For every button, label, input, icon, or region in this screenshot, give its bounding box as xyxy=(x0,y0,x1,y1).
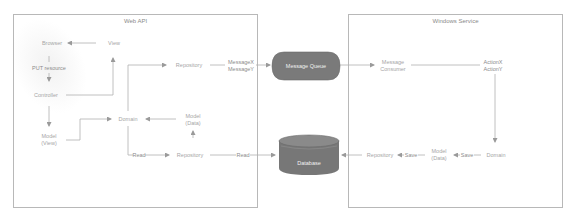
read-label-left: Read xyxy=(132,152,145,159)
database-label: Database xyxy=(297,160,321,166)
controller-node: Controller xyxy=(34,92,58,99)
domain-node-webapi: Domain xyxy=(119,116,138,123)
model-view-node: Model (View) xyxy=(41,133,57,146)
message-queue-label: Message Queue xyxy=(286,63,326,69)
message-labels: MessageX MessageY xyxy=(228,59,254,72)
browser-node: Browser xyxy=(42,40,62,47)
repository-top-node: Repository xyxy=(176,62,202,69)
repository-bottom-node: Repository xyxy=(177,152,203,159)
put-resource-label: PUT resource xyxy=(32,65,66,72)
repository-node-service: Repository xyxy=(367,152,393,159)
save-label-right: Save xyxy=(461,152,474,159)
model-data-node-webapi: Model (Data) xyxy=(185,113,200,126)
action-labels: ActionX ActionY xyxy=(484,59,503,72)
connector-lines xyxy=(0,0,574,216)
read-label-right: Read xyxy=(236,152,249,159)
model-data-node-service: Model (Data) xyxy=(431,148,446,161)
database-shape xyxy=(279,135,339,175)
save-label-left: Save xyxy=(405,152,418,159)
architecture-diagram: Web API Windows Service xyxy=(0,0,574,216)
domain-node-service: Domain xyxy=(487,152,506,159)
view-node: View xyxy=(108,40,120,47)
message-consumer-node: Message Consumer xyxy=(380,59,405,72)
